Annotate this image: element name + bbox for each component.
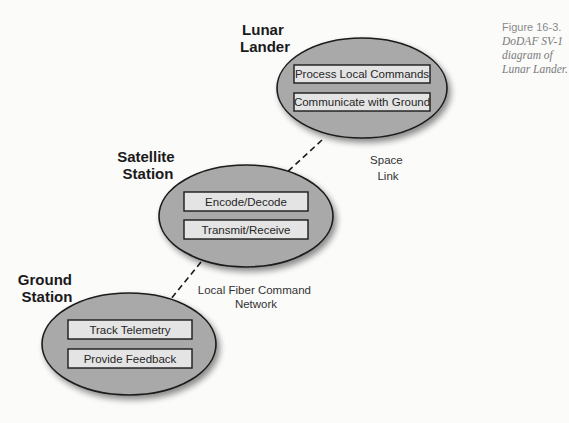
function-label: Provide Feedback [84, 353, 177, 365]
node-title-line-1: Satellite [117, 148, 175, 165]
function-label: Encode/Decode [205, 196, 287, 208]
node-title-line-1: Ground [18, 271, 72, 288]
node-title-line-2: Station [123, 165, 174, 182]
fiber-network-link-label: Local Fiber Command Network [198, 284, 314, 310]
space-link-label: Space Link [370, 154, 406, 182]
node-ellipse [42, 293, 216, 395]
node-title: Lunar Lander [240, 21, 290, 55]
node-ellipse [159, 165, 333, 267]
fiber-network-label-line-2: Network [235, 298, 277, 310]
space-link-line [284, 140, 322, 175]
function-label: Communicate with Ground [294, 96, 430, 108]
figure-number: Figure 16-3. [502, 20, 568, 34]
figure-description: DoDAF SV-1 diagram of Lunar Lander. [502, 34, 568, 76]
sv1-diagram: Space Link Local Fiber Command Network L… [0, 0, 569, 423]
fiber-network-link-line [170, 262, 201, 300]
space-link-label-line-2: Link [377, 170, 398, 182]
node-ground-station: Ground Station Track Telemetry Provide F… [18, 271, 216, 395]
node-title-line-1: Lunar [242, 21, 284, 38]
node-satellite-station: Satellite Station Encode/Decode Transmit… [117, 148, 333, 267]
figure-caption: Figure 16-3. DoDAF SV-1 diagram of Lunar… [502, 20, 568, 76]
space-link-label-line-1: Space [370, 154, 403, 166]
node-title-line-2: Station [22, 288, 73, 305]
function-label: Transmit/Receive [201, 224, 290, 236]
node-title: Satellite Station [117, 148, 179, 182]
function-label: Process Local Commands [295, 68, 429, 80]
function-label: Track Telemetry [89, 324, 170, 336]
node-ellipse [277, 38, 447, 138]
node-lunar-lander: Lunar Lander Process Local Commands Comm… [240, 21, 447, 138]
fiber-network-label-line-1: Local Fiber Command [198, 284, 311, 296]
node-title-line-2: Lander [240, 38, 290, 55]
node-title: Ground Station [18, 271, 76, 305]
